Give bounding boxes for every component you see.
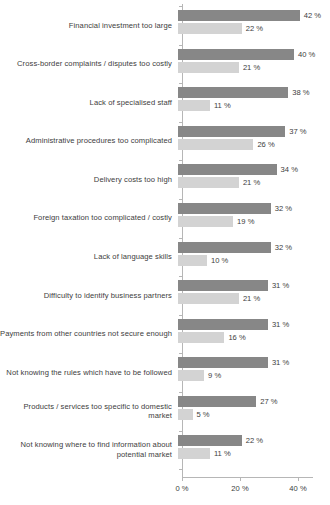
bar-group: 22 % xyxy=(178,435,263,446)
x-axis-tick xyxy=(298,478,299,481)
bar-series1 xyxy=(178,396,256,407)
bar-group: 31 % xyxy=(178,280,289,291)
category-label: Financial investment too large xyxy=(0,21,178,31)
bar-group: 21 % xyxy=(178,62,260,73)
bars-cell: 32 %10 % xyxy=(178,238,330,277)
category-label: Products / services too specific to dome… xyxy=(0,402,178,421)
bars-cell: 31 %9 % xyxy=(178,353,330,392)
chart-category-row: Difficulty to identify business partners… xyxy=(0,276,330,315)
bar-group: 31 % xyxy=(178,319,289,330)
y-axis-tick xyxy=(179,469,182,470)
chart-category-row: Financial investment too large42 %22 % xyxy=(0,6,330,45)
bar-group: 19 % xyxy=(178,216,254,227)
bar-value-label: 22 % xyxy=(246,436,263,445)
bar-series1 xyxy=(178,87,288,98)
bars-cell: 37 %26 % xyxy=(178,122,330,161)
bar-value-label: 22 % xyxy=(246,24,263,33)
y-axis-tick xyxy=(179,353,182,354)
y-axis-tick xyxy=(179,315,182,316)
bar-series2 xyxy=(178,100,210,111)
bar-group: 32 % xyxy=(178,242,292,253)
bars-cell: 40 %21 % xyxy=(178,45,330,84)
bar-value-label: 9 % xyxy=(208,371,221,380)
bar-value-label: 32 % xyxy=(275,243,292,252)
bar-group: 27 % xyxy=(178,396,278,407)
bar-value-label: 10 % xyxy=(211,256,228,265)
plot-area: Financial investment too large42 %22 %Cr… xyxy=(0,0,330,505)
bar-group: 31 % xyxy=(178,357,289,368)
bar-value-label: 31 % xyxy=(272,281,289,290)
bar-group: 34 % xyxy=(178,164,298,175)
x-axis-tick-label: 20 % xyxy=(231,484,248,493)
category-label: Difficulty to identify business partners xyxy=(0,291,178,301)
category-label: Administrative procedures too complicate… xyxy=(0,136,178,146)
bar-series2 xyxy=(178,409,193,420)
bar-group: 42 % xyxy=(178,10,321,21)
y-axis-tick xyxy=(179,431,182,432)
bar-series2 xyxy=(178,255,207,266)
category-rows: Financial investment too large42 %22 %Cr… xyxy=(0,6,330,469)
bar-value-label: 5 % xyxy=(197,410,210,419)
bar-value-label: 42 % xyxy=(304,11,321,20)
category-label: Lack of specialised staff xyxy=(0,98,178,108)
y-axis-tick xyxy=(179,45,182,46)
bar-series2 xyxy=(178,448,210,459)
bar-series2 xyxy=(178,139,253,150)
bar-group: 26 % xyxy=(178,139,275,150)
bar-value-label: 21 % xyxy=(243,63,260,72)
bar-value-label: 11 % xyxy=(214,449,231,458)
x-axis-tick-label: 0 % xyxy=(175,484,188,493)
bar-value-label: 34 % xyxy=(281,165,298,174)
bars-cell: 27 %5 % xyxy=(178,392,330,431)
chart-category-row: Lack of language skills32 %10 % xyxy=(0,238,330,277)
chart-category-row: Lack of specialised staff38 %11 % xyxy=(0,83,330,122)
bar-group: 5 % xyxy=(178,409,210,420)
chart-category-row: Foreign taxation too complicated / costl… xyxy=(0,199,330,238)
bar-group: 9 % xyxy=(178,370,221,381)
bars-cell: 31 %21 % xyxy=(178,276,330,315)
y-axis-tick xyxy=(179,276,182,277)
bar-series1 xyxy=(178,357,268,368)
bar-value-label: 32 % xyxy=(275,204,292,213)
bar-group: 22 % xyxy=(178,23,263,34)
bar-group: 16 % xyxy=(178,332,246,343)
bar-group: 32 % xyxy=(178,203,292,214)
y-axis-tick xyxy=(179,199,182,200)
y-axis-tick xyxy=(179,122,182,123)
y-axis-tick xyxy=(179,392,182,393)
bar-series1 xyxy=(178,126,285,137)
bars-cell: 38 %11 % xyxy=(178,83,330,122)
bar-value-label: 11 % xyxy=(214,101,231,110)
bar-group: 38 % xyxy=(178,87,310,98)
x-axis-tick xyxy=(182,478,183,481)
chart-category-row: Payments from other countries not secure… xyxy=(0,315,330,354)
bar-group: 40 % xyxy=(178,49,315,60)
bar-value-label: 26 % xyxy=(257,140,274,149)
bar-group: 10 % xyxy=(178,255,228,266)
category-label: Not knowing the rules which have to be f… xyxy=(0,368,178,378)
bar-series2 xyxy=(178,370,204,381)
y-axis-tick xyxy=(179,6,182,7)
bar-series1 xyxy=(178,164,277,175)
category-label: Foreign taxation too complicated / costl… xyxy=(0,213,178,223)
bar-value-label: 38 % xyxy=(292,88,309,97)
y-axis-tick xyxy=(179,83,182,84)
chart-category-row: Products / services too specific to dome… xyxy=(0,392,330,431)
bar-value-label: 21 % xyxy=(243,178,260,187)
bar-series1 xyxy=(178,10,300,21)
bar-value-label: 19 % xyxy=(237,217,254,226)
bar-value-label: 16 % xyxy=(228,333,245,342)
x-axis-tick-label: 40 % xyxy=(289,484,306,493)
bar-group: 11 % xyxy=(178,448,231,459)
y-axis-tick xyxy=(179,160,182,161)
x-axis-tick xyxy=(240,478,241,481)
bar-series1 xyxy=(178,319,268,330)
bar-value-label: 27 % xyxy=(260,397,277,406)
bars-cell: 31 %16 % xyxy=(178,315,330,354)
bar-value-label: 31 % xyxy=(272,358,289,367)
bar-value-label: 37 % xyxy=(289,127,306,136)
bar-series1 xyxy=(178,203,271,214)
bar-series1 xyxy=(178,242,271,253)
bar-series2 xyxy=(178,177,239,188)
bars-cell: 32 %19 % xyxy=(178,199,330,238)
